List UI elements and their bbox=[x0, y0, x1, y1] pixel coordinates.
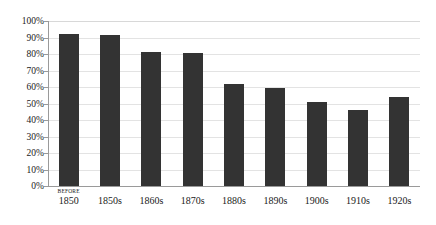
x-axis-tick-label: 1920s bbox=[378, 188, 420, 207]
y-axis-tick-mark bbox=[44, 170, 48, 171]
bar bbox=[59, 34, 79, 186]
x-axis-tick-label: 1900s bbox=[296, 188, 338, 207]
bar bbox=[224, 84, 244, 186]
bar bbox=[348, 110, 368, 186]
bar bbox=[265, 88, 285, 186]
y-axis-tick-label: 20% bbox=[2, 148, 44, 158]
bar bbox=[307, 102, 327, 186]
x-axis-tick-label-prefix: BEFORE bbox=[48, 188, 90, 195]
y-axis-tick-mark bbox=[44, 87, 48, 88]
x-axis-tick-label: 1860s bbox=[130, 188, 172, 207]
y-axis-tick-mark bbox=[44, 54, 48, 55]
bar bbox=[100, 35, 120, 186]
x-axis-tick-label: 1880s bbox=[213, 188, 255, 207]
y-axis-tick-labels: 0%10%20%30%40%50%60%70%80%90%100% bbox=[0, 0, 44, 225]
x-axis-tick-label: 1870s bbox=[172, 188, 214, 207]
y-axis-tick-mark bbox=[44, 186, 48, 187]
y-axis-tick-label: 80% bbox=[2, 49, 44, 59]
y-axis-tick-mark bbox=[44, 120, 48, 121]
y-axis-tick-mark bbox=[44, 137, 48, 138]
x-axis-tick-label: 1850s bbox=[89, 188, 131, 207]
gridline bbox=[48, 21, 420, 22]
y-axis-tick-mark bbox=[44, 38, 48, 39]
y-axis-tick-label: 0% bbox=[2, 181, 44, 191]
y-axis-tick-label: 90% bbox=[2, 33, 44, 43]
y-axis-tick-label: 40% bbox=[2, 115, 44, 125]
y-axis-tick-label: 70% bbox=[2, 66, 44, 76]
x-axis-line bbox=[48, 186, 420, 187]
y-axis-tick-label: 30% bbox=[2, 132, 44, 142]
x-axis-tick-label-main: 1870s bbox=[172, 195, 214, 207]
y-axis-tick-label: 50% bbox=[2, 99, 44, 109]
y-axis-tick-mark bbox=[44, 104, 48, 105]
y-axis-tick-mark bbox=[44, 153, 48, 154]
x-axis-tick-label: BEFORE1850 bbox=[48, 188, 90, 207]
x-axis-tick-labels: BEFORE1850 1850s 1860s 1870s 1880s 1890s… bbox=[48, 188, 420, 225]
x-axis-tick-label-main: 1920s bbox=[378, 195, 420, 207]
bar bbox=[183, 53, 203, 186]
y-axis-tick-mark bbox=[44, 71, 48, 72]
plot-area bbox=[48, 21, 420, 186]
bar bbox=[141, 52, 161, 186]
x-axis-tick-label-main: 1910s bbox=[337, 195, 379, 207]
bar bbox=[389, 97, 409, 186]
x-axis-tick-label: 1890s bbox=[254, 188, 296, 207]
x-axis-tick-label-main: 1850s bbox=[89, 195, 131, 207]
x-axis-tick-label-main: 1890s bbox=[254, 195, 296, 207]
bar-chart: 0%10%20%30%40%50%60%70%80%90%100% BEFORE… bbox=[0, 0, 436, 225]
y-axis-tick-label: 10% bbox=[2, 165, 44, 175]
y-axis-line bbox=[48, 21, 49, 187]
y-axis-tick-mark bbox=[44, 21, 48, 22]
y-axis-tick-label: 60% bbox=[2, 82, 44, 92]
y-axis-tick-label: 100% bbox=[2, 16, 44, 26]
x-axis-tick-label-main: 1860s bbox=[130, 195, 172, 207]
x-axis-tick-label-main: 1850 bbox=[48, 195, 90, 207]
x-axis-tick-label: 1910s bbox=[337, 188, 379, 207]
x-axis-tick-label-main: 1900s bbox=[296, 195, 338, 207]
x-axis-tick-label-main: 1880s bbox=[213, 195, 255, 207]
